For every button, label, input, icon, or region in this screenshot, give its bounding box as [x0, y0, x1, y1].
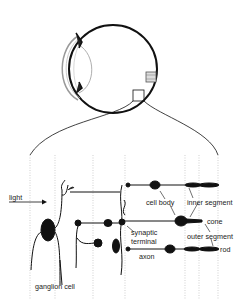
label-axon: axon [139, 253, 155, 260]
retina-diagram [0, 0, 242, 306]
ganglion-cell [31, 180, 74, 285]
label-ganglion-cell: ganglion cell [35, 283, 75, 290]
label-light: light [9, 194, 22, 201]
label-cone: cone [207, 218, 223, 225]
synaptic-column [119, 185, 125, 275]
label-cell-body: cell body [146, 199, 174, 206]
upper-photoreceptor [126, 181, 219, 189]
label-synaptic: synaptic [131, 229, 157, 236]
label-rod: rod [220, 246, 230, 253]
cone [124, 216, 202, 226]
label-outer-segment: outer segment [187, 233, 233, 240]
bipolar-cells [70, 192, 122, 268]
eyeball [62, 25, 157, 113]
label-terminal: terminal [131, 238, 157, 245]
label-inner-segment: inner segment [187, 199, 233, 206]
layer-guides [30, 155, 218, 300]
